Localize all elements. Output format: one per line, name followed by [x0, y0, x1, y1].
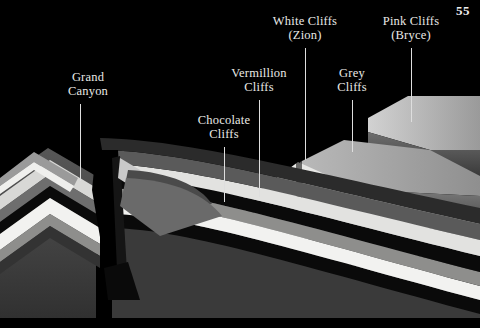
label-line: Grand: [68, 70, 108, 84]
label-white-cliffs-zion: White Cliffs (Zion): [273, 14, 337, 43]
label-line: (Zion): [273, 28, 337, 42]
leader-line-grand-canyon: [80, 104, 81, 181]
label-line: Cliffs: [231, 80, 286, 94]
leader-line-white-cliffs: [305, 48, 306, 160]
label-line: (Bryce): [383, 28, 440, 42]
leader-line-pink-cliffs: [411, 48, 412, 122]
diagram-page: 55 Grand Canyon Chocolate Cliffs Vermill…: [0, 0, 480, 328]
leader-line-vermillion-cliffs: [259, 100, 260, 197]
label-chocolate-cliffs: Chocolate Cliffs: [198, 113, 250, 142]
label-grey-cliffs: Grey Cliffs: [337, 66, 366, 95]
leader-line-chocolate-cliffs: [224, 147, 225, 202]
label-pink-cliffs-bryce: Pink Cliffs (Bryce): [383, 14, 440, 43]
bottom-border: [0, 318, 480, 328]
label-line: Grey: [337, 66, 366, 80]
leader-line-grey-cliffs: [352, 100, 353, 152]
page-number: 55: [456, 3, 470, 19]
label-line: Cliffs: [337, 80, 366, 94]
label-line: White Cliffs: [273, 14, 337, 28]
label-line: Cliffs: [198, 127, 250, 141]
label-line: Chocolate: [198, 113, 250, 127]
label-vermillion-cliffs: Vermillion Cliffs: [231, 66, 286, 95]
label-line: Pink Cliffs: [383, 14, 440, 28]
label-line: Canyon: [68, 84, 108, 98]
label-line: Vermillion: [231, 66, 286, 80]
grand-staircase-block-diagram: [0, 0, 480, 328]
label-grand-canyon: Grand Canyon: [68, 70, 108, 99]
